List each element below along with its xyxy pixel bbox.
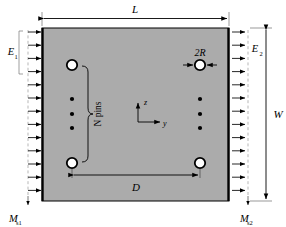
label-n-pins: N pins bbox=[93, 101, 103, 126]
dimension-label-2R: 2R bbox=[194, 47, 205, 58]
pin-dot bbox=[70, 97, 74, 101]
label-E1-subscript: 1 bbox=[14, 53, 17, 60]
dimension-label-D: D bbox=[131, 181, 140, 193]
label-E2-subscript: 2 bbox=[259, 50, 262, 57]
pin-dot bbox=[70, 126, 74, 130]
axis-label-y: y bbox=[162, 119, 167, 128]
plate-schematic-svg: L E 1 M s1 bbox=[0, 0, 286, 227]
hole-top-right bbox=[195, 60, 205, 70]
figure-canvas: L E 1 M s1 bbox=[0, 0, 286, 227]
dimension-label-W: W bbox=[273, 108, 283, 120]
hole-top-left bbox=[67, 60, 77, 70]
left-load-arrows bbox=[28, 32, 41, 190]
label-E2: E bbox=[251, 43, 259, 54]
hole-bottom-right bbox=[195, 158, 205, 168]
right-load-arrow-group bbox=[232, 30, 248, 205]
right-load-arrows bbox=[232, 32, 245, 190]
label-Ms1-subscript: s1 bbox=[16, 219, 22, 226]
label-Ms2-subscript: s2 bbox=[247, 219, 253, 226]
left-load-arrow-group bbox=[28, 30, 41, 205]
pin-dot bbox=[198, 126, 202, 130]
hole-bottom-left bbox=[67, 158, 77, 168]
pin-dot bbox=[198, 112, 202, 116]
pin-dot bbox=[198, 97, 202, 101]
pin-dot bbox=[70, 112, 74, 116]
dimension-label-L: L bbox=[131, 3, 138, 15]
